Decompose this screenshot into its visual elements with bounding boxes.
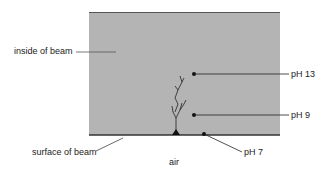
ph7-label: pH 7 <box>244 148 263 157</box>
ph7-leader <box>204 134 242 152</box>
surface-of-beam-label: surface of beam <box>32 148 97 157</box>
ph9-label: pH 9 <box>291 111 310 120</box>
ph13-label: pH 13 <box>291 70 315 79</box>
concrete-beam <box>89 12 280 135</box>
surface-leader <box>96 138 123 151</box>
air-label: air <box>169 158 179 167</box>
inside-of-beam-label: inside of beam <box>14 47 73 56</box>
